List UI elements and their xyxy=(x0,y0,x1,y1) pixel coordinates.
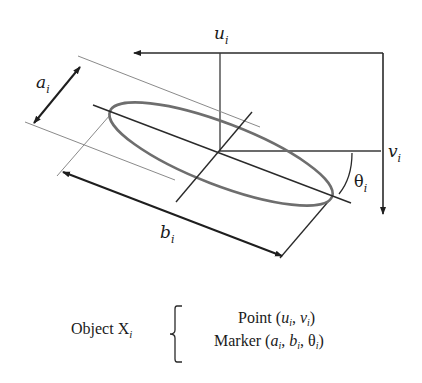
b-label: bi xyxy=(160,222,174,246)
object-label: Object Xi xyxy=(71,320,132,340)
theta-angle-arc xyxy=(339,153,352,194)
point-definition: Point (ui, vi) xyxy=(238,309,315,328)
a-label: ai xyxy=(36,72,50,96)
ellipse-marker-diagram: ui vi ai bi θi Object Xi Point (ui, vi) … xyxy=(0,0,422,383)
grouping-brace xyxy=(170,306,182,362)
lower-tangent-line xyxy=(25,122,175,180)
minor-axis-line xyxy=(176,112,252,202)
marker-definition: Marker (ai, bi, θi) xyxy=(214,332,324,351)
left-extension-line xyxy=(57,115,110,176)
upper-tangent-line xyxy=(78,56,260,127)
v-label: vi xyxy=(388,141,401,165)
u-label: ui xyxy=(214,23,228,47)
theta-label: θi xyxy=(354,172,367,195)
